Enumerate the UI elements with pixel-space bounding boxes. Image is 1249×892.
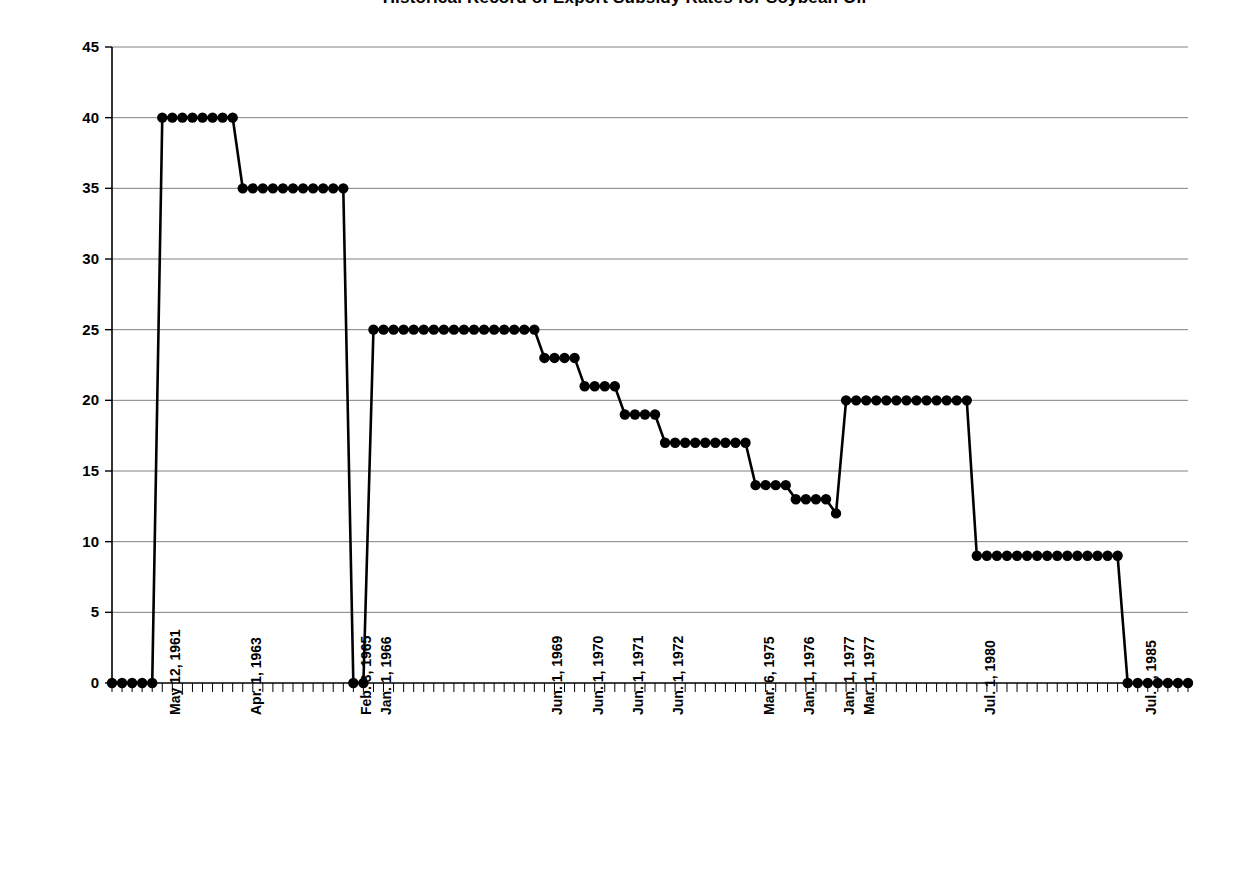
x-tick-label: Apr. 1, 1963 [249, 637, 263, 715]
x-axis-minor-ticks [112, 683, 1188, 692]
y-tick-label: 45 [59, 40, 99, 54]
x-tick-label: Jan. 1, 1977 [842, 636, 856, 715]
y-tick-label: 10 [59, 535, 99, 549]
y-tick-label: 30 [59, 252, 99, 266]
y-tick-label: 20 [59, 393, 99, 407]
x-tick-label: May 12, 1961 [168, 629, 182, 715]
x-tick-label: Jan. 1, 1966 [379, 636, 393, 715]
x-tick-label: Mar. 1, 1977 [862, 636, 876, 715]
y-tick-label: 0 [59, 676, 99, 690]
x-tick-label: Jul. 1, 1980 [983, 640, 997, 715]
y-tick-label: 15 [59, 464, 99, 478]
y-tick-label: 40 [59, 111, 99, 125]
x-tick-label: Jun. 1, 1972 [671, 636, 685, 715]
y-tick-label: 25 [59, 323, 99, 337]
x-tick-label: Mar. 6, 1975 [762, 636, 776, 715]
x-tick-label: Jun. 1, 1971 [631, 636, 645, 715]
x-tick-label: Jun. 1, 1969 [550, 636, 564, 715]
y-tick-label: 35 [59, 181, 99, 195]
y-axis-ticks [105, 47, 112, 683]
x-tick-label: Jul. 1, 1985 [1144, 640, 1158, 715]
chart-container: Historical Record of Export Subsidy Rate… [0, 0, 1249, 892]
y-tick-label: 5 [59, 605, 99, 619]
x-tick-label: Feb. 3, 1965 [359, 636, 373, 715]
gridlines [112, 47, 1188, 612]
x-tick-label: Jan. 1, 1976 [802, 636, 816, 715]
x-tick-label: Jun. 1, 1970 [591, 636, 605, 715]
plot-area [0, 0, 1249, 892]
